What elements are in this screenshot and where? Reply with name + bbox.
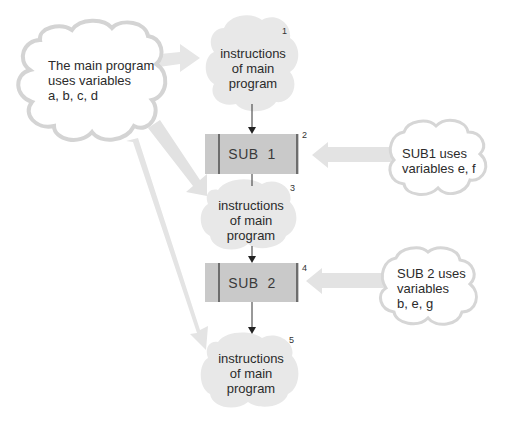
block1-line2: of main — [212, 61, 294, 76]
sub1-note-line1: SUB1 uses — [402, 146, 476, 161]
main-note-line3: a, b, c, d — [48, 88, 154, 103]
step-number-1: 1 — [282, 26, 287, 36]
block3-line3: program — [208, 228, 294, 243]
sub1-variables-note: SUB1 uses variables e, f — [402, 146, 476, 176]
sub2-note-line3: b, e, g — [397, 296, 466, 311]
main-note-line1: The main program — [48, 58, 154, 73]
step-number-2: 2 — [302, 130, 307, 140]
main-variables-note: The main program uses variables a, b, c,… — [48, 58, 154, 103]
instructions-block-3: instructions of main program — [208, 198, 294, 243]
instructions-block-5: instructions of main program — [208, 351, 294, 396]
arrow-main-to-block3 — [148, 120, 207, 196]
step-number-3: 3 — [290, 183, 295, 193]
instructions-block-1: instructions of main program — [212, 46, 294, 91]
block1-line3: program — [212, 76, 294, 91]
block3-line1: instructions — [208, 198, 294, 213]
sub2-note-line2: variables — [397, 281, 466, 296]
sub2-label: SUB 2 — [207, 275, 297, 291]
sub1-label: SUB 1 — [207, 146, 297, 162]
step-number-5: 5 — [289, 335, 294, 345]
block5-line3: program — [208, 381, 294, 396]
flow-arrow-3-to-4 — [248, 246, 256, 263]
arrow-main-to-block5 — [126, 138, 208, 350]
flow-arrow-4-to-5 — [248, 302, 256, 334]
block3-line2: of main — [208, 213, 294, 228]
arrow-sub2-note-to-sub2 — [306, 268, 385, 294]
arrow-sub1-note-to-sub1 — [312, 142, 395, 168]
sub2-box: SUB 2 — [205, 263, 299, 302]
sub2-note-line1: SUB 2 uses — [397, 266, 466, 281]
sub2-variables-note: SUB 2 uses variables b, e, g — [397, 266, 466, 311]
sub1-box: SUB 1 — [205, 134, 299, 174]
step-number-4: 4 — [302, 263, 307, 273]
block5-line2: of main — [208, 366, 294, 381]
main-note-line2: uses variables — [48, 73, 154, 88]
block1-line1: instructions — [212, 46, 294, 61]
block5-line1: instructions — [208, 351, 294, 366]
sub1-note-line2: variables e, f — [402, 161, 476, 176]
